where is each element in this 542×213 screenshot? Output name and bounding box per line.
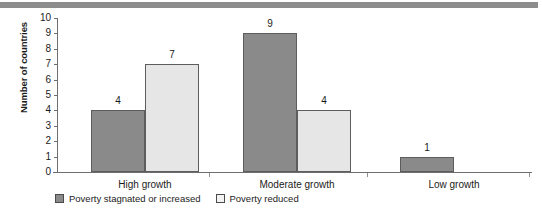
bar-value-label: 4: [297, 96, 351, 106]
legend-swatch-icon: [216, 194, 225, 203]
x-tick-mark: [529, 173, 530, 177]
x-category-label: High growth: [61, 179, 229, 190]
y-tick-label: 4: [27, 105, 51, 115]
y-tick-label: 8: [27, 44, 51, 54]
plot-area: 109876543210 47941 High growthModerate g…: [57, 18, 532, 172]
y-tick-label: 6: [27, 75, 51, 85]
bar-value-label: 4: [91, 96, 145, 106]
y-tick-label: 7: [27, 59, 51, 69]
y-tick-mark: [54, 80, 58, 81]
legend-label: Poverty stagnated or increased: [69, 193, 201, 204]
x-tick-mark: [367, 173, 368, 177]
bar-chart-figure: Number of countries 109876543210 47941 H…: [0, 0, 542, 213]
bar-value-label: 7: [145, 50, 199, 60]
y-tick-label: 3: [27, 121, 51, 131]
y-tick-label: 9: [27, 28, 51, 38]
y-tick-label: 0: [27, 167, 51, 177]
x-category-label: Moderate growth: [213, 179, 381, 190]
x-category-label: Low growth: [370, 179, 538, 190]
y-tick-mark: [54, 126, 58, 127]
y-tick-mark: [54, 49, 58, 50]
bar-moderate-growth-series-1: [243, 33, 297, 172]
legend-item-1[interactable]: Poverty stagnated or increased: [55, 193, 201, 204]
chart-legend: Poverty stagnated or increasedPoverty re…: [55, 193, 299, 204]
legend-swatch-icon: [55, 194, 64, 203]
y-tick-label: 2: [27, 136, 51, 146]
bar-low-growth-series-1: [400, 157, 454, 172]
y-tick-mark: [54, 64, 58, 65]
y-tick-mark: [54, 33, 58, 34]
bar-value-label: 9: [243, 19, 297, 29]
bar-moderate-growth-series-2: [297, 110, 351, 172]
bar-high-growth-series-2: [145, 64, 199, 172]
bar-high-growth-series-1: [91, 110, 145, 172]
y-tick-mark: [54, 18, 58, 19]
y-tick-label: 10: [27, 13, 51, 23]
x-tick-mark: [209, 173, 210, 177]
y-tick-mark: [54, 172, 58, 173]
legend-label: Poverty reduced: [230, 193, 299, 204]
y-tick-mark: [54, 110, 58, 111]
y-tick-label: 1: [27, 152, 51, 162]
bar-value-label: 1: [400, 143, 454, 153]
y-tick-mark: [54, 157, 58, 158]
legend-item-2[interactable]: Poverty reduced: [216, 193, 299, 204]
y-tick-mark: [54, 141, 58, 142]
y-tick-mark: [54, 95, 58, 96]
y-tick-label: 5: [27, 90, 51, 100]
x-axis-line: [53, 172, 532, 173]
